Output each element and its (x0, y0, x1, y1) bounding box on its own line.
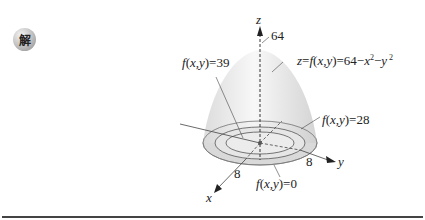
x-tick-label: 8 (234, 166, 241, 181)
z-axis-label: z (255, 12, 261, 27)
x-axis-label: x (205, 190, 212, 205)
level-39-label: f(x,y)=39 (182, 55, 229, 70)
y-tick-label: 8 (306, 154, 313, 169)
y-axis-label: y (336, 154, 344, 169)
surface-equation: z=f(x,y)=64−x2−y 2 (296, 53, 393, 68)
level-28-label: f(x,y)=28 (322, 112, 369, 127)
paraboloid-figure: z 64 f(x,y)=39 z=f(x,y)=64−x2−y 2 f(x,y)… (0, 0, 425, 220)
section-divider (2, 216, 423, 218)
level-0-label: f(x,y)=0 (256, 176, 297, 191)
z-max-label: 64 (271, 28, 285, 43)
